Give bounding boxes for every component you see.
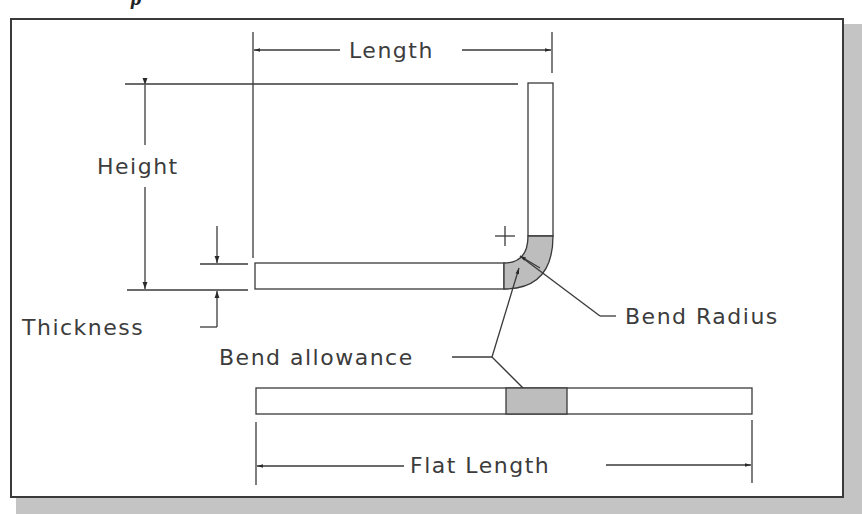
height-dimension: [125, 84, 518, 290]
height-label: Height: [97, 154, 179, 179]
length-dimension: [253, 32, 552, 258]
length-label: Length: [349, 38, 434, 63]
thickness-label: Thickness: [21, 315, 144, 340]
bend-radius-label: Bend Radius: [625, 304, 779, 329]
flat-pattern: [256, 388, 752, 414]
flat-length-label: Flat Length: [410, 453, 550, 478]
sheet-metal-bend-diagram: Length Height Thickness Bend Radius Bend…: [0, 0, 862, 514]
bend-center-mark: [495, 226, 515, 246]
thickness-dimension: [200, 226, 248, 327]
bent-part-horizontal-leg: [255, 263, 504, 289]
bend-radius-leader: [520, 256, 616, 316]
bent-part-vertical-leg: [528, 83, 553, 236]
bend-allowance-label: Bend allowance: [219, 345, 414, 370]
flat-bend-allowance-region: [506, 388, 567, 414]
